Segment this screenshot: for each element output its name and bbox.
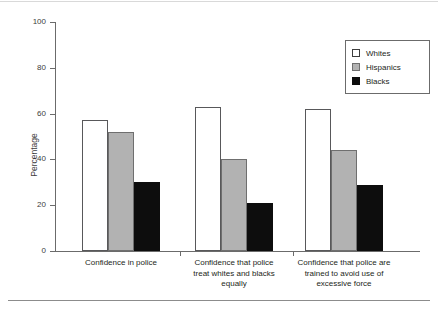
y-tick-80 [50,68,55,69]
bar-hispanics-group-3 [331,150,357,251]
category-label-line: excessive force [279,279,409,290]
legend-swatch-blacks-icon [352,77,360,85]
y-tick-label-100: 100 [33,18,46,26]
legend-item-whites: Whites [352,46,423,60]
legend-label-blacks: Blacks [366,77,390,86]
y-tick-60 [50,114,55,115]
x-group-separator-1 [180,251,181,256]
y-axis-line [55,22,56,251]
x-axis-line [55,251,420,252]
bar-whites-group-3 [305,109,331,251]
bar-blacks-group-2 [247,203,273,251]
category-label-line: Confidence that police are [279,258,409,269]
legend-label-whites: Whites [366,49,390,58]
legend-label-hispanics: Hispanics [366,63,401,72]
y-tick-100 [50,22,55,23]
legend-swatch-hispanics-icon [352,63,360,71]
legend-item-hispanics: Hispanics [352,60,423,74]
bottom-divider [8,300,430,301]
y-tick-20 [50,205,55,206]
bar-hispanics-group-1 [108,132,134,251]
y-tick-label-0: 0 [42,247,46,255]
legend: Whites Hispanics Blacks [345,40,430,94]
y-tick-0 [50,251,55,252]
y-tick-label-20: 20 [37,201,46,209]
y-tick-40 [50,159,55,160]
bar-whites-group-1 [82,120,108,251]
y-tick-label-60: 60 [37,110,46,118]
figure: Percentage 020406080100 Confidence in po… [0,0,438,309]
category-label-line: Confidence in police [56,258,186,269]
y-tick-label-40: 40 [37,155,46,163]
bar-hispanics-group-2 [221,159,247,251]
bar-blacks-group-1 [134,182,160,251]
bar-blacks-group-3 [357,185,383,251]
category-label-1: Confidence in police [56,258,186,269]
bar-whites-group-2 [195,107,221,251]
y-tick-label-80: 80 [37,64,46,72]
category-label-3: Confidence that police aretrained to avo… [279,258,409,290]
legend-swatch-whites-icon [352,49,360,57]
x-group-separator-2 [293,251,294,256]
legend-item-blacks: Blacks [352,74,423,88]
category-label-line: trained to avoid use of [279,269,409,280]
top-divider [0,1,438,2]
